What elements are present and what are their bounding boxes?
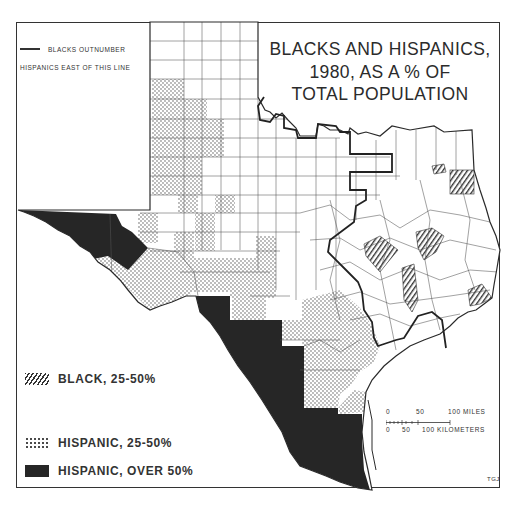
scale-km-0: 0 xyxy=(386,426,390,433)
coastline-island xyxy=(368,400,376,470)
author-credit: TGJ xyxy=(487,476,500,482)
legend-label: HISPANIC, OVER 50% xyxy=(58,464,193,478)
scale-miles-0: 0 xyxy=(386,408,390,415)
title-line-3: TOTAL POPULATION xyxy=(258,83,502,106)
stipple-swatch-icon xyxy=(25,437,49,449)
map-title: BLACKS AND HISPANICS, 1980, AS A % OF TO… xyxy=(258,38,502,106)
dividing-line-legend: BLACKS OUTNUMBER HISPANICS EAST OF THIS … xyxy=(20,44,130,72)
legend-label: HISPANIC, 25-50% xyxy=(58,436,172,450)
solid-swatch-icon xyxy=(25,465,49,477)
legend-item-hispanic-25-50: HISPANIC, 25-50% xyxy=(25,436,172,450)
title-line-1: BLACKS AND HISPANICS, xyxy=(258,38,502,61)
title-line-2: 1980, AS A % OF xyxy=(258,61,502,84)
line-legend-text-2: HISPANICS EAST OF THIS LINE xyxy=(20,64,130,71)
legend-label: BLACK, 25-50% xyxy=(58,372,156,386)
scale-bar: 0 50 100 MILES 0 50 100 KILOMETERS xyxy=(386,408,506,435)
scale-miles-50: 50 xyxy=(416,408,424,415)
scale-km-50: 50 xyxy=(402,426,410,433)
legend-item-hispanic-over-50: HISPANIC, OVER 50% xyxy=(25,464,193,478)
legend-item-black-25-50: BLACK, 25-50% xyxy=(25,372,156,386)
scale-miles-100: 100 MILES xyxy=(448,408,486,415)
line-legend-text-1: BLACKS OUTNUMBER xyxy=(48,46,125,53)
hatch-swatch-icon xyxy=(25,373,49,385)
scale-km-100: 100 KILOMETERS xyxy=(422,426,485,433)
dividing-line-swatch xyxy=(20,48,40,50)
